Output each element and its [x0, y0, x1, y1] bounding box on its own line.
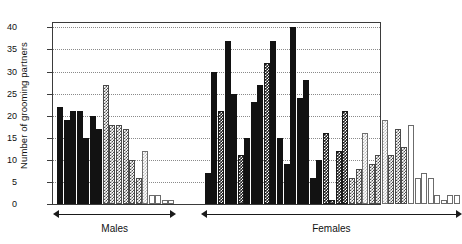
bar: [136, 178, 142, 204]
y-axis-tick-label: 20: [0, 111, 17, 121]
bar: [270, 41, 276, 204]
bar: [388, 155, 394, 204]
bar: [205, 173, 211, 204]
bar: [336, 151, 342, 204]
y-axis-tick-label: 5: [0, 177, 17, 187]
bar-group: [54, 23, 379, 204]
bar: [238, 155, 244, 204]
bar: [162, 200, 168, 204]
bar: [103, 85, 109, 204]
bar: [251, 102, 257, 204]
bar: [225, 41, 231, 204]
bar: [168, 200, 174, 204]
bar: [142, 151, 148, 204]
y-axis-tick-label: 0: [0, 199, 17, 209]
bar: [323, 133, 329, 204]
bar: [90, 116, 96, 204]
bar: [434, 195, 440, 204]
bar: [349, 178, 355, 204]
bar: [382, 120, 388, 204]
bar: [408, 125, 414, 204]
females-range-arrow: [201, 209, 462, 221]
bar: [77, 111, 83, 204]
bar: [70, 111, 76, 204]
bar: [290, 27, 296, 204]
bar: [316, 160, 322, 204]
bar: [244, 138, 250, 204]
y-axis-tick-label: 30: [0, 67, 17, 77]
bar: [284, 164, 290, 204]
bar: [109, 125, 115, 204]
bar: [83, 138, 89, 204]
males-range-arrow: [53, 209, 176, 221]
y-axis-tick-label: 10: [0, 155, 17, 165]
bar: [310, 178, 316, 204]
y-axis-tick-label: 25: [0, 89, 17, 99]
bar: [395, 129, 401, 204]
bar: [447, 195, 453, 204]
males-group-label: Males: [53, 223, 176, 234]
y-axis-tick-label: 15: [0, 133, 17, 143]
bar: [362, 133, 368, 204]
arrow-shaft: [57, 214, 172, 215]
bar: [211, 72, 217, 204]
y-axis-title: Number of grooming partners: [18, 11, 29, 201]
bar: [369, 164, 375, 204]
bar: [155, 195, 161, 204]
bar: [57, 107, 63, 204]
bar: [129, 160, 135, 204]
bar: [96, 129, 102, 204]
bar: [297, 98, 303, 204]
females-group-label: Females: [201, 223, 462, 234]
bar: [116, 125, 122, 204]
bar: [428, 178, 434, 204]
bar: [303, 80, 309, 204]
bar: [123, 129, 129, 204]
bar: [149, 195, 155, 204]
bar: [231, 94, 237, 204]
bar: [257, 85, 263, 204]
bar: [329, 200, 335, 204]
y-axis-tick-label: 40: [0, 22, 17, 32]
bar: [264, 63, 270, 204]
bar: [277, 138, 283, 204]
bar: [342, 111, 348, 204]
arrow-head-right-icon: [456, 210, 462, 218]
plot-area: [52, 22, 381, 205]
bar: [401, 147, 407, 204]
arrow-head-right-icon: [170, 210, 176, 218]
bar: [64, 120, 70, 204]
bar: [454, 195, 460, 204]
bar: [218, 111, 224, 204]
bar: [375, 155, 381, 204]
bar: [415, 178, 421, 204]
bar: [421, 173, 427, 204]
bar: [356, 169, 362, 204]
arrow-shaft: [205, 214, 458, 215]
y-axis-tick-label: 35: [0, 44, 17, 54]
bar: [441, 200, 447, 204]
